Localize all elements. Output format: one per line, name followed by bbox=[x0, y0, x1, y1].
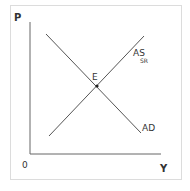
x-axis-label: Y bbox=[159, 163, 168, 174]
equilibrium-point bbox=[95, 84, 98, 87]
ad-curve bbox=[46, 34, 141, 133]
ad-as-diagram: P Y 0 E AS SR AD bbox=[0, 0, 190, 191]
equilibrium-label: E bbox=[92, 72, 98, 82]
y-axis-label: P bbox=[14, 12, 21, 23]
as-curve-subscript: SR bbox=[140, 57, 148, 64]
origin-label: 0 bbox=[22, 160, 28, 170]
ad-curve-label: AD bbox=[142, 123, 155, 133]
